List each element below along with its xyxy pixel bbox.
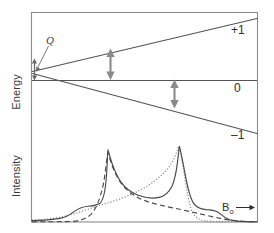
figure-canvas: +1 0 –1 Q Energy B o Intens	[0, 0, 274, 233]
level-label-plus-one: +1	[231, 23, 245, 37]
field-axis-arrow-head	[250, 205, 256, 210]
transition-arrow-right-head-down	[170, 100, 178, 109]
quadrupole-splitting-arrow-head-down	[32, 75, 37, 80]
level-label-minus-one: –1	[231, 128, 245, 142]
energy-level-panel: +1 0 –1 Q Energy	[10, 19, 257, 143]
plot-frame-rect	[32, 13, 258, 223]
transition-arrow-left-head-down	[106, 72, 114, 81]
quadrupole-leader-line	[37, 46, 49, 70]
quadrupole-leader-arrowhead	[36, 67, 40, 72]
field-axis-label: B	[222, 201, 229, 213]
plot-frame	[32, 13, 258, 223]
energy-level-plus-one-line	[33, 19, 258, 72]
energy-axis-label: Energy	[10, 74, 22, 110]
field-axis-subscript: o	[230, 207, 234, 216]
quadrupole-label: Q	[46, 34, 54, 46]
energy-level-minus-one-line	[33, 74, 258, 134]
intensity-axis-label: Intensity	[10, 155, 22, 197]
field-axis-label-group: B o	[222, 201, 255, 216]
figure-container: +1 0 –1 Q Energy B o Intens	[0, 0, 274, 233]
spectrum-panel: B o Intensity	[10, 146, 257, 221]
quadrupole-splitting-arrow-head-up	[32, 59, 37, 64]
level-label-zero: 0	[234, 81, 241, 95]
